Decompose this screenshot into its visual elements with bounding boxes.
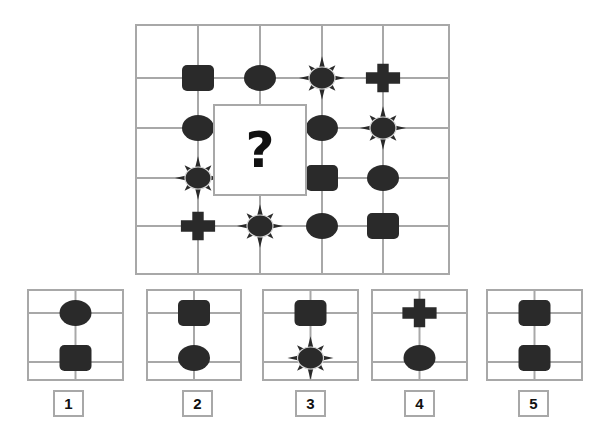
oval-shape xyxy=(306,213,338,239)
oval-icon xyxy=(367,165,399,191)
square-icon xyxy=(60,345,92,371)
oval-shape xyxy=(367,165,399,191)
option-1 xyxy=(28,290,123,380)
oval-shape xyxy=(404,345,436,371)
square-shape xyxy=(519,345,551,371)
option-number: 5 xyxy=(529,395,537,412)
sun-center xyxy=(309,67,335,89)
cross-shape xyxy=(366,64,400,93)
sun-icon xyxy=(360,106,406,150)
cross-icon xyxy=(366,64,400,93)
square-icon xyxy=(295,300,327,326)
oval-icon xyxy=(404,345,436,371)
square-shape xyxy=(306,165,338,191)
oval-icon xyxy=(178,345,210,371)
option-number: 3 xyxy=(306,395,314,412)
square-icon xyxy=(519,300,551,326)
oval-shape xyxy=(244,65,276,91)
option-label-3[interactable]: 3 xyxy=(295,390,326,417)
cross-shape xyxy=(181,212,215,241)
sun-center xyxy=(370,117,396,139)
option-label-5[interactable]: 5 xyxy=(518,390,549,417)
cross-icon xyxy=(181,212,215,241)
square-icon xyxy=(306,165,338,191)
square-icon xyxy=(519,345,551,371)
option-label-1[interactable]: 1 xyxy=(53,390,84,417)
option-number: 4 xyxy=(415,395,423,412)
sun-shape xyxy=(360,106,406,150)
option-label-4[interactable]: 4 xyxy=(404,390,435,417)
square-icon xyxy=(367,213,399,239)
oval-icon xyxy=(306,213,338,239)
oval-icon xyxy=(306,115,338,141)
oval-shape xyxy=(178,345,210,371)
sun-icon xyxy=(237,204,283,248)
oval-shape xyxy=(306,115,338,141)
question-mark: ? xyxy=(245,125,274,175)
oval-icon xyxy=(182,115,214,141)
oval-icon xyxy=(60,300,92,326)
square-shape xyxy=(60,345,92,371)
square-icon xyxy=(178,300,210,326)
option-5 xyxy=(487,290,582,380)
oval-icon xyxy=(244,65,276,91)
oval-shape xyxy=(60,300,92,326)
sun-center xyxy=(247,215,273,237)
oval-shape xyxy=(182,115,214,141)
puzzle-stage: ? 1 2 3 4 5 xyxy=(0,0,615,439)
option-4 xyxy=(372,290,467,380)
sun-center xyxy=(298,347,324,369)
sun-shape xyxy=(237,204,283,248)
option-number: 1 xyxy=(64,395,72,412)
option-label-2[interactable]: 2 xyxy=(182,390,213,417)
square-shape xyxy=(367,213,399,239)
missing-piece-box: ? xyxy=(213,104,307,196)
puzzle-canvas xyxy=(0,0,615,439)
square-shape xyxy=(182,65,214,91)
option-3 xyxy=(263,290,358,380)
square-shape xyxy=(295,300,327,326)
option-number: 2 xyxy=(193,395,201,412)
square-shape xyxy=(178,300,210,326)
option-2 xyxy=(147,290,241,380)
option-grids xyxy=(28,290,582,380)
square-icon xyxy=(182,65,214,91)
sun-center xyxy=(185,167,211,189)
sun-shape xyxy=(299,56,345,100)
sun-icon xyxy=(299,56,345,100)
square-shape xyxy=(519,300,551,326)
